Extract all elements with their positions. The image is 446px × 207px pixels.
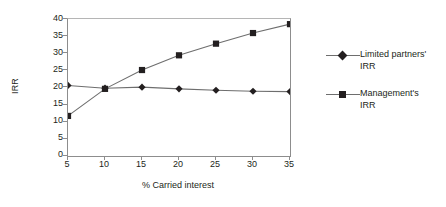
- data-point-1-20: [175, 85, 182, 92]
- x-tick-label-5: 5: [55, 158, 79, 170]
- y-tick-label-40: 40: [39, 13, 63, 24]
- x-tick-label-30: 30: [240, 158, 264, 170]
- y-tick-label-15: 15: [39, 98, 63, 109]
- y-axis-title-text: IRR: [10, 78, 20, 94]
- data-point-1-5: [68, 82, 72, 89]
- data-point-1-15: [138, 84, 145, 91]
- y-axis-title: IRR: [8, 62, 22, 110]
- data-point-2-15: [139, 67, 145, 73]
- data-point-1-35: [286, 88, 290, 95]
- plot-area: [67, 18, 291, 157]
- y-tick-label-25: 25: [39, 64, 63, 75]
- legend-item-limited-partners: Limited partners' IRR: [326, 49, 444, 72]
- legend-label-limited-partners: Limited partners' IRR: [360, 49, 426, 72]
- legend-label-management: Management's IRR: [360, 88, 419, 111]
- data-point-2-20: [176, 52, 182, 58]
- x-tick-label-20: 20: [166, 158, 190, 170]
- chart-figure: IRR 40 35 30 25 20 15 10 5 0 5 10 15 20 …: [0, 0, 446, 207]
- data-point-2-35: [287, 21, 290, 27]
- y-tick-label-5: 5: [39, 132, 63, 143]
- x-tick-label-15: 15: [129, 158, 153, 170]
- square-marker-icon: [326, 89, 360, 100]
- data-point-2-10: [102, 86, 108, 92]
- data-point-1-25: [212, 87, 219, 94]
- data-point-2-30: [250, 30, 256, 36]
- data-point-2-25: [213, 41, 219, 47]
- y-tick-label-35: 35: [39, 30, 63, 41]
- y-tick-label-30: 30: [39, 47, 63, 58]
- x-axis-title: % Carried interest: [67, 180, 289, 190]
- series-line-2: [68, 24, 290, 116]
- data-point-2-5: [68, 113, 71, 119]
- chart-legend: Limited partners' IRR Management's IRR: [326, 49, 444, 127]
- diamond-marker-icon: [326, 50, 360, 61]
- x-tick-label-10: 10: [92, 158, 116, 170]
- x-tick-label-25: 25: [203, 158, 227, 170]
- plot-svg: [68, 19, 290, 156]
- legend-item-management: Management's IRR: [326, 88, 444, 111]
- y-tick-label-20: 20: [39, 81, 63, 92]
- y-tick-label-10: 10: [39, 115, 63, 126]
- x-tick-label-35: 35: [277, 158, 301, 170]
- data-point-1-30: [249, 88, 256, 95]
